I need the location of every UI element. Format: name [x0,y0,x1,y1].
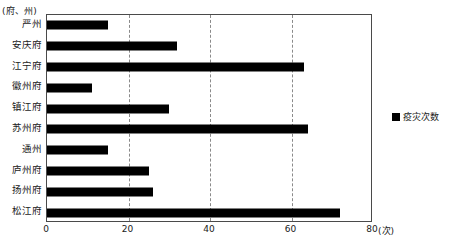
bar-row [47,181,371,202]
category-label: 通州 [22,139,42,160]
bar [47,42,177,51]
bar-row [47,161,371,182]
bar [47,166,149,175]
x-tick-label: 60 [285,224,296,234]
chart-legend: 疫灾次数 [392,110,439,123]
category-label: 苏州府 [12,118,42,139]
category-label: 江宁府 [12,56,42,77]
bar-rows [47,15,371,221]
category-label: 镇江府 [12,97,42,118]
bar [47,104,169,113]
bar-row [47,15,371,36]
bar-row [47,140,371,161]
x-tick-label: 20 [122,224,133,234]
bar-row [47,98,371,119]
epidemic-frequency-bar-chart: (府、州) 严州安庆府江宁府徽州府镇江府苏州府通州庐州府扬州府松江府 (次) 0… [0,0,454,241]
plot-area [46,14,372,222]
bar-row [47,36,371,57]
bar [47,83,92,92]
bar [47,146,108,155]
x-tick-label: 0 [43,224,49,234]
bar [47,187,153,196]
x-tick-label: 80 [366,224,377,234]
bar [47,21,108,30]
category-label: 扬州府 [12,180,42,201]
bar-row [47,119,371,140]
bar [47,62,304,71]
category-label: 庐州府 [12,160,42,181]
x-axis-ticks: (次) 020406080 [0,222,454,241]
category-label: 严州 [22,14,42,35]
x-axis-unit-caption: (次) [378,224,394,237]
category-axis-labels: 严州安庆府江宁府徽州府镇江府苏州府通州庐州府扬州府松江府 [0,14,44,222]
bar-row [47,57,371,78]
x-tick-label: 40 [203,224,214,234]
category-label: 安庆府 [12,35,42,56]
bar-row [47,202,371,223]
bar [47,125,308,134]
bar [47,208,340,217]
category-label: 徽州府 [12,76,42,97]
category-label: 松江府 [12,201,42,222]
legend-swatch-icon [392,113,400,121]
bar-row [47,77,371,98]
legend-item-label: 疫灾次数 [403,110,439,123]
